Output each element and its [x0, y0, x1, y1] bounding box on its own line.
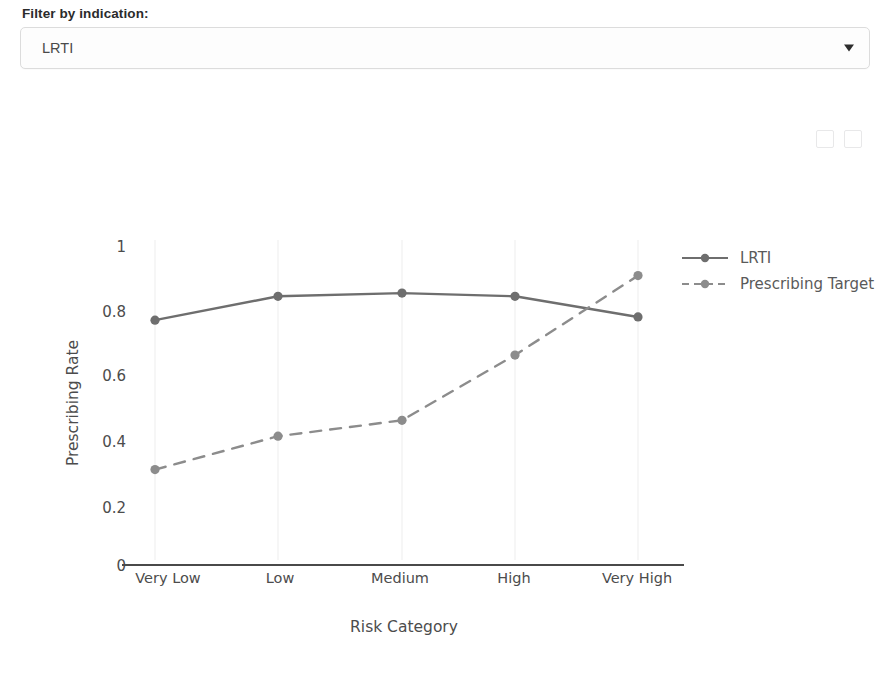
indication-select-value: LRTI — [42, 40, 73, 56]
data-point[interactable] — [150, 465, 159, 474]
data-point[interactable] — [397, 289, 406, 298]
data-point[interactable] — [633, 312, 642, 321]
legend-marker-lrti — [701, 254, 709, 262]
x-tick-label-very-high: Very High — [602, 570, 672, 586]
y-axis-ticks: 1 0.8 0.6 0.4 0.2 0 — [102, 238, 126, 575]
x-axis-category-labels: Very Low Low Medium High Very High — [135, 570, 672, 586]
chart-legend: LRTI Prescribing Target — [682, 249, 874, 293]
chart-svg: 1 0.8 0.6 0.4 0.2 0 Very Low Low Medium … — [0, 110, 890, 670]
legend-marker-prescribing-target — [701, 280, 709, 288]
y-tick-label: 0.2 — [102, 499, 126, 517]
data-point[interactable] — [273, 432, 282, 441]
y-tick-label: 1 — [116, 238, 126, 256]
legend-label-lrti: LRTI — [740, 249, 771, 267]
filter-by-indication-label: Filter by indication: — [20, 0, 870, 27]
y-axis-title: Prescribing Rate — [64, 340, 82, 466]
indication-select[interactable]: LRTI — [20, 27, 870, 69]
plot-toolbar[interactable] — [816, 130, 862, 148]
x-axis-title: Risk Category — [350, 618, 458, 636]
legend-label-prescribing-target: Prescribing Target — [740, 275, 874, 293]
ghost-gridlines — [155, 240, 638, 560]
data-point[interactable] — [633, 271, 642, 280]
chevron-down-icon[interactable] — [844, 45, 854, 52]
pan-icon[interactable] — [816, 130, 834, 148]
data-point[interactable] — [150, 316, 159, 325]
x-tick-label-very-low: Very Low — [135, 570, 201, 586]
data-point[interactable] — [397, 416, 406, 425]
data-point[interactable] — [510, 351, 519, 360]
zoom-icon[interactable] — [844, 130, 862, 148]
data-point[interactable] — [273, 292, 282, 301]
y-tick-label: 0.8 — [102, 303, 126, 321]
x-tick-label-high: High — [497, 570, 530, 586]
y-tick-label: 0.6 — [102, 367, 126, 385]
series-line-lrti — [155, 293, 638, 320]
series-layer — [150, 271, 642, 474]
x-tick-label-low: Low — [266, 570, 295, 586]
prescribing-rate-chart: 1 0.8 0.6 0.4 0.2 0 Very Low Low Medium … — [0, 110, 890, 670]
y-tick-label: 0.4 — [102, 433, 126, 451]
indication-filter-block: Filter by indication: LRTI — [20, 0, 870, 69]
data-point[interactable] — [510, 292, 519, 301]
x-tick-label-medium: Medium — [371, 570, 429, 586]
